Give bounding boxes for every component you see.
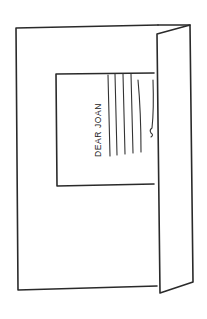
letter-greeting: DEAR JOAN — [93, 103, 103, 157]
card-flap — [157, 25, 193, 293]
card-front-panel — [16, 25, 158, 290]
letter-text-lines — [108, 74, 153, 156]
card-drawing: DEAR JOAN — [0, 0, 207, 319]
